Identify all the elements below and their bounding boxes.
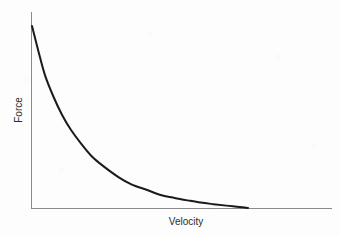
force-velocity-chart: Force Velocity [0,0,340,236]
plot-area [0,0,340,236]
force-velocity-curve [32,26,248,208]
y-axis-label: Force [13,97,24,123]
x-axis-label: Velocity [169,216,203,227]
